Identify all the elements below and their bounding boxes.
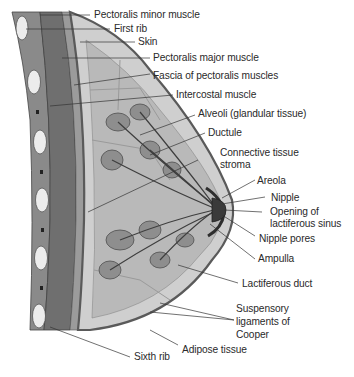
label-pectoralis-major: Pectoralis major muscle	[153, 52, 259, 64]
label-sixth-rib: Sixth rib	[134, 351, 170, 363]
label-opening-of: Opening of	[270, 206, 319, 218]
label-ampulla: Ampulla	[258, 253, 294, 265]
breast-anatomy-diagram: Pectoralis minor muscle First rib Skin P…	[0, 0, 354, 377]
label-lactiferous-sinus: lactiferous sinus	[270, 218, 341, 230]
label-nipple: Nipple	[271, 192, 299, 204]
label-nipple-pores: Nipple pores	[259, 233, 315, 245]
label-suspensory: Suspensory	[236, 303, 289, 315]
label-connective-tissue: Connective tissue	[220, 147, 299, 159]
label-adipose-tissue: Adipose tissue	[182, 344, 247, 356]
label-skin: Skin	[138, 36, 157, 48]
label-ductule: Ductule	[208, 127, 242, 139]
label-first-rib: First rib	[114, 23, 147, 35]
label-fascia: Fascia of pectoralis muscles	[153, 70, 278, 82]
label-intercostal: Intercostal muscle	[176, 89, 256, 101]
label-pectoralis-minor: Pectoralis minor muscle	[94, 9, 200, 21]
label-stroma: stroma	[220, 159, 251, 171]
chest-wall	[12, 12, 84, 330]
label-ligaments-of: ligaments of	[236, 316, 290, 328]
label-areola: Areola	[257, 175, 286, 187]
label-cooper: Cooper	[236, 329, 269, 341]
label-alveoli: Alveoli (glandular tissue)	[198, 108, 306, 120]
label-lactiferous-duct: Lactiferous duct	[242, 278, 312, 290]
